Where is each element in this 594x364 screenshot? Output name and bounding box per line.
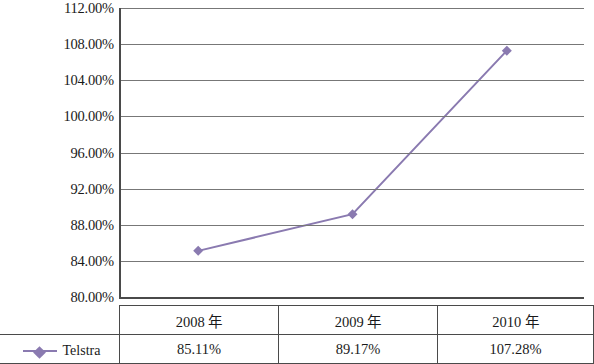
y-axis-tick-label: 100.00% [63,108,114,125]
gridline [121,189,584,190]
table-cell-value: 85.11% [120,335,279,364]
y-axis-tick-label: 80.00% [70,289,114,306]
y-axis-tick-label: 104.00% [63,72,114,89]
table-header-cell: 2008 年 [120,306,279,335]
table-header-cell: 2010 年 [438,306,594,335]
gridline [121,225,584,226]
table-header-cell: 2009 年 [279,306,438,335]
y-axis-tick-label: 108.00% [63,36,114,53]
gridline [121,116,584,117]
legend-label: Telstra [63,343,101,359]
legend-line-icon [23,350,57,352]
data-point-marker [193,246,203,256]
table-row: Telstra 85.11% 89.17% 107.28% [0,335,594,364]
diamond-marker-icon [33,346,46,359]
plot-area: 80.00%84.00%88.00%92.00%96.00%100.00%104… [119,8,584,299]
table-cell-value: 89.17% [279,335,438,364]
line-series-telstra [121,8,586,299]
table-row-categories: 2008 年 2009 年 2010 年 [0,306,594,335]
y-axis-tick-label: 92.00% [70,180,114,197]
gridline [121,153,584,154]
y-axis-tick-label: 88.00% [70,216,114,233]
gridline [121,80,584,81]
gridline [121,261,584,262]
y-axis-tick-label: 112.00% [64,0,114,17]
y-axis-tick-label: 84.00% [70,252,114,269]
table-cell-value: 107.28% [438,335,594,364]
gridline [121,8,584,9]
data-table: 2008 年 2009 年 2010 年 Telstra 85.11% 89.1… [0,305,594,364]
legend-entry-telstra: Telstra [0,335,120,364]
y-axis-tick-label: 96.00% [70,144,114,161]
gridline [121,44,584,45]
table-corner-cell [0,306,120,335]
